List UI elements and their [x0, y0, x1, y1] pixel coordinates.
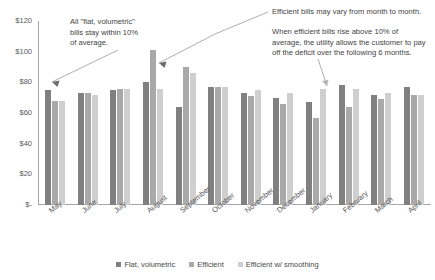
bar-group [137, 21, 170, 205]
bar [287, 93, 293, 205]
bar [320, 89, 326, 206]
bar [222, 87, 228, 205]
bar [85, 93, 91, 205]
bar-group [72, 21, 105, 205]
legend-label: Efficient [197, 260, 224, 269]
y-axis-tick: $80 [19, 78, 32, 86]
legend-item[interactable]: Efficient [189, 260, 224, 269]
x-axis: MayJuneJulyAugustSeptemberOctoberNovembe… [39, 206, 430, 252]
y-axis-tick: $20 [19, 170, 32, 178]
bar-group [202, 21, 235, 205]
bar [124, 89, 130, 206]
bar [183, 67, 189, 205]
bar [339, 85, 345, 205]
bar [117, 89, 123, 206]
legend-swatch-icon [189, 262, 194, 267]
y-axis-tick: $- [25, 201, 32, 209]
bar-chart: $120$100$80$60$40$20$- MayJuneJulyAugust… [0, 0, 435, 280]
bar [45, 90, 51, 205]
y-axis-tick: $60 [19, 109, 32, 117]
bar [241, 93, 247, 205]
legend-label: Efficient w/ smoothing [246, 260, 319, 269]
bar-group [235, 21, 268, 205]
bar [92, 95, 98, 205]
bar-group [104, 21, 137, 205]
annotation-deficit-smoothing: When efficient bills rise above 10% of a… [272, 27, 434, 59]
bar [248, 96, 254, 205]
bar-group [169, 21, 202, 205]
bar-group [39, 21, 72, 205]
bar [353, 89, 359, 206]
annotation-efficient-varies: Efficient bills may vary from month to m… [272, 7, 432, 18]
y-axis-tick: $100 [15, 48, 32, 56]
annotation-flat-volumetric: All "flat, volumetric" bills stay within… [70, 17, 190, 49]
bar [378, 99, 384, 205]
bar [418, 95, 424, 205]
bar [404, 87, 410, 205]
bar [273, 98, 279, 205]
bar [78, 93, 84, 205]
bar [150, 50, 156, 205]
bar [52, 101, 58, 205]
bar [371, 95, 377, 205]
legend-item[interactable]: Efficient w/ smoothing [238, 260, 319, 269]
bar [306, 102, 312, 205]
bar [157, 89, 163, 206]
bar [215, 87, 221, 205]
bar [385, 93, 391, 205]
bar [176, 107, 182, 205]
bar [346, 107, 352, 205]
y-axis: $120$100$80$60$40$20$- [0, 14, 36, 212]
y-axis-tick: $40 [19, 140, 32, 148]
bar [143, 82, 149, 205]
legend-swatch-icon [238, 262, 243, 267]
bar [280, 104, 286, 205]
chart-legend: Flat, volumetricEfficientEfficient w/ sm… [0, 260, 435, 269]
bar [59, 101, 65, 205]
bar [190, 73, 196, 205]
y-axis-tick: $120 [15, 17, 32, 25]
legend-label: Flat, volumetric [124, 260, 175, 269]
legend-item[interactable]: Flat, volumetric [116, 260, 175, 269]
bar [313, 118, 319, 205]
bar [255, 90, 261, 205]
bar [110, 90, 116, 205]
bar [411, 95, 417, 205]
legend-swatch-icon [116, 262, 121, 267]
